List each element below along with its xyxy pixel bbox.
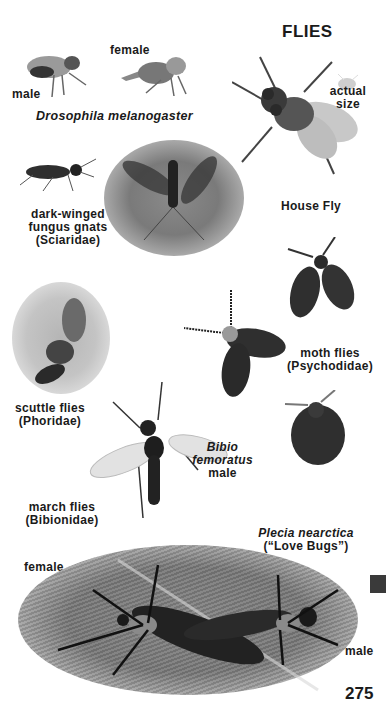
fungus-gnats-line3: (Sciaridae) — [28, 234, 108, 247]
love-bugs-male-label: male — [345, 645, 374, 658]
drosophila-female-image — [116, 48, 201, 98]
march-flies-line2: (Bibionidae) — [22, 514, 102, 527]
moth-flies-line2: (Psychodidae) — [285, 360, 375, 373]
love-bugs-photo — [18, 545, 358, 695]
moth-flies-label: moth flies (Psychodidae) — [285, 347, 375, 373]
fungus-gnat-side-image — [18, 155, 98, 195]
page-number: 275 — [345, 684, 373, 704]
bibio-label: Bibio femoratus male — [185, 441, 260, 480]
moth-fly-image-3 — [283, 390, 353, 470]
scuttle-fly-photo — [12, 282, 110, 394]
fungus-gnats-label: dark-winged fungus gnats (Sciaridae) — [28, 208, 108, 247]
house-fly-label: House Fly — [281, 200, 341, 213]
fungus-gnat-photo — [104, 140, 244, 256]
scuttle-flies-label: scuttle flies (Phoridae) — [4, 402, 96, 428]
drosophila-species-label: Drosophila melanogaster — [36, 110, 193, 123]
page-title: FLIES — [282, 22, 333, 42]
march-flies-label: march flies (Bibionidae) — [22, 501, 102, 527]
drosophila-male-label: male — [12, 88, 41, 101]
section-thumb-tab — [370, 575, 386, 593]
moth-fly-image-1 — [283, 237, 363, 322]
scuttle-flies-line2: (Phoridae) — [4, 415, 96, 428]
actual-size-line2: size — [326, 98, 370, 111]
actual-size-label: actual size — [326, 85, 370, 111]
bibio-line3: male — [185, 467, 260, 480]
